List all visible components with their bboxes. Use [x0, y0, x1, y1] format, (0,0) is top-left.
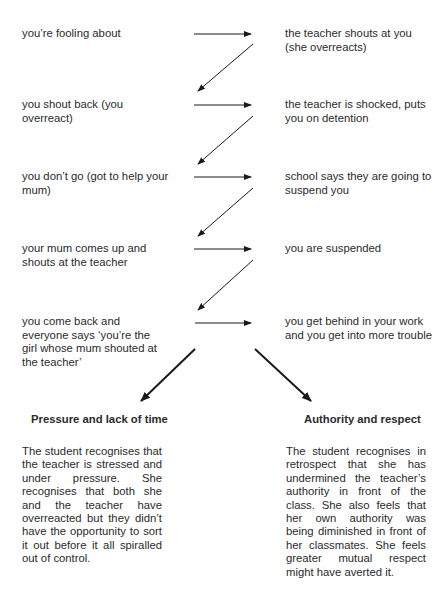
arrow-outcome-right	[255, 349, 311, 401]
step-2-effect: the teacher is shocked, puts you on dete…	[285, 98, 435, 125]
arrow-diag-1	[198, 44, 253, 91]
outcome-text-pressure: The student recognises that the teacher …	[22, 445, 162, 566]
step-3-effect: school says they are going to suspend yo…	[285, 170, 435, 197]
outcome-heading-authority: Authority and respect	[304, 412, 421, 426]
outcome-text-authority: The student recognises in retrospect tha…	[286, 445, 426, 579]
step-5-cause: you come back and everyone says ‘you’re …	[22, 315, 167, 369]
step-3-cause: you don’t go (got to help your mum)	[22, 170, 172, 197]
step-1-effect: the teacher shouts at you (she overreact…	[285, 27, 435, 54]
arrow-diag-4	[198, 260, 253, 310]
arrow-diag-3	[198, 188, 253, 236]
step-4-effect: you are suspended	[285, 242, 435, 256]
arrow-diag-2	[198, 116, 253, 164]
step-5-effect: you get behind in your work and you get …	[285, 315, 433, 342]
step-4-cause: your mum comes up and shouts at the teac…	[22, 242, 172, 269]
outcome-heading-pressure: Pressure and lack of time	[31, 412, 168, 426]
step-1-cause: you’re fooling about	[22, 27, 172, 41]
step-2-cause: you shout back (you overreact)	[22, 98, 172, 125]
